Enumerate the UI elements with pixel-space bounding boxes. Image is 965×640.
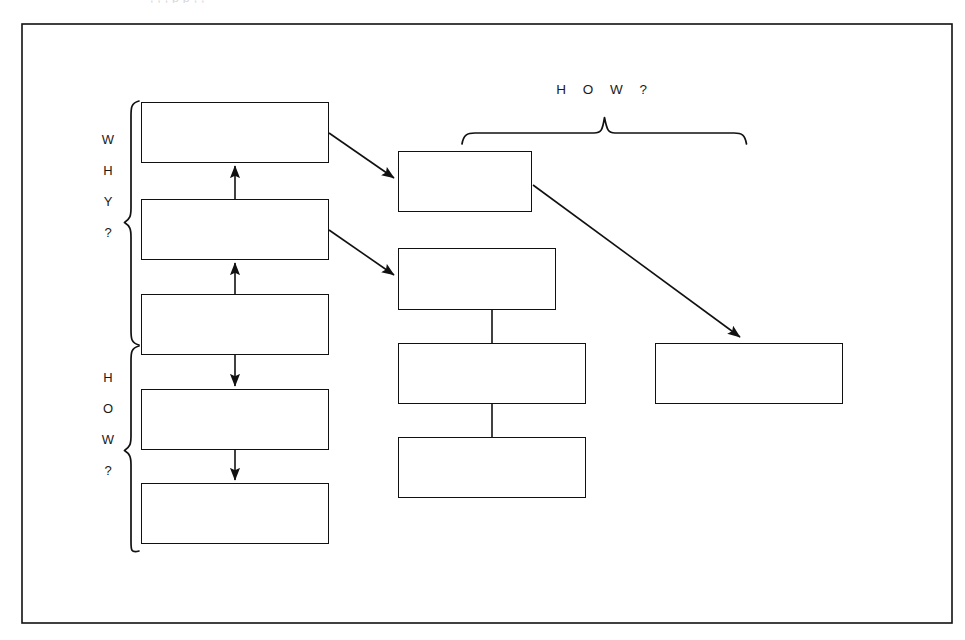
- how-top-brace: [462, 118, 747, 145]
- middle-box-2[interactable]: [398, 248, 556, 310]
- middle-box-1[interactable]: [398, 151, 532, 212]
- diagram-canvas: , , , p p , , W H Y ?: [0, 0, 965, 640]
- middle-box-3[interactable]: [398, 343, 586, 404]
- how-letter-4: ?: [95, 455, 121, 486]
- why-label: W H Y ?: [95, 124, 121, 248]
- how-letter-3: W: [95, 424, 121, 455]
- left-box-5[interactable]: [141, 483, 329, 544]
- connector-left-2-to-middle-2: [329, 230, 394, 275]
- left-box-2[interactable]: [141, 199, 329, 260]
- how-label: H O W ?: [95, 362, 121, 486]
- left-box-3[interactable]: [141, 294, 329, 355]
- connector-middle-1-to-right-1: [533, 185, 740, 337]
- why-letter-1: W: [95, 124, 121, 155]
- why-letter-3: Y: [95, 186, 121, 217]
- why-letter-4: ?: [95, 217, 121, 248]
- middle-box-4[interactable]: [398, 437, 586, 498]
- right-box-1[interactable]: [655, 343, 843, 404]
- left-box-4[interactable]: [141, 389, 329, 450]
- why-brace: [125, 101, 140, 345]
- left-box-1[interactable]: [141, 102, 329, 163]
- how-top-label: H O W ?: [500, 82, 710, 97]
- how-letter-2: O: [95, 393, 121, 424]
- why-letter-2: H: [95, 155, 121, 186]
- how-brace: [125, 346, 140, 552]
- how-letter-1: H: [95, 362, 121, 393]
- connector-left-1-to-middle-1: [329, 133, 394, 178]
